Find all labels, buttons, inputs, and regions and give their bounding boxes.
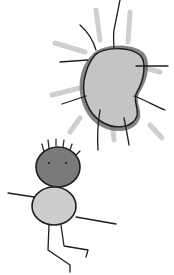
drawing-canvas — [0, 0, 174, 275]
left-arm — [8, 193, 34, 197]
left-eye — [48, 162, 50, 164]
left-leg — [48, 225, 70, 272]
right-eye — [65, 162, 67, 164]
head — [36, 147, 80, 187]
sun-body — [84, 49, 144, 127]
torso — [32, 187, 76, 225]
stick-figure — [8, 139, 116, 272]
right-arm — [76, 217, 116, 224]
right-leg — [61, 225, 88, 257]
